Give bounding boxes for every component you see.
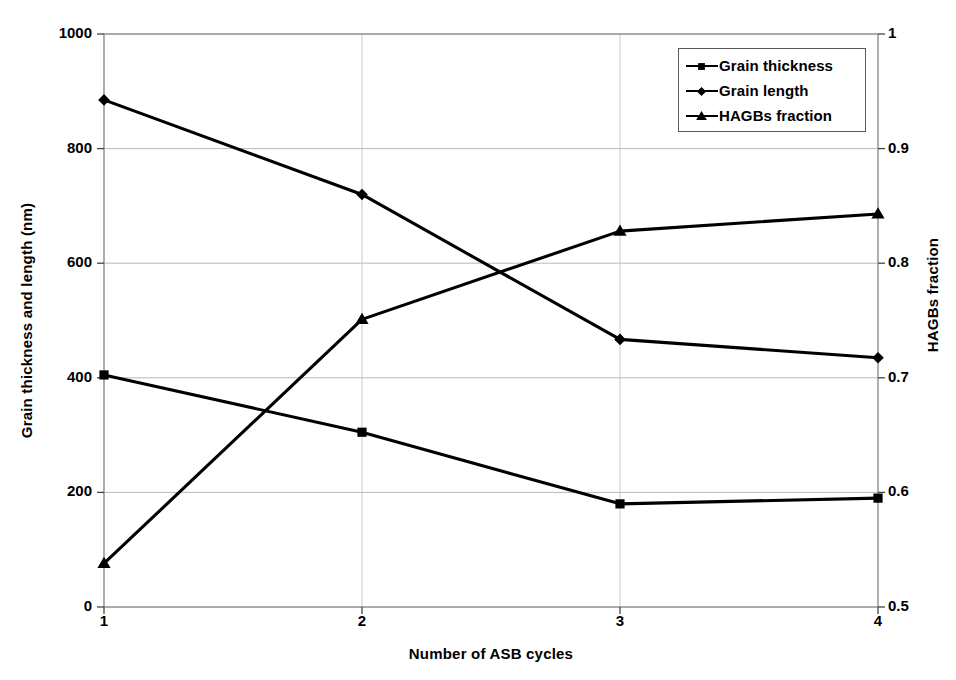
chart-legend: Grain thicknessGrain lengthHAGBs fractio… (678, 48, 866, 132)
legend-item[interactable]: Grain length (685, 78, 859, 103)
legend-marker-triangle-icon (685, 109, 719, 123)
x-axis-tick-label: 4 (874, 612, 882, 629)
x-axis-tick-label: 3 (616, 612, 624, 629)
legend-marker-square-icon (685, 59, 719, 73)
legend-marker-diamond-icon (685, 84, 719, 98)
x-axis-tick-label: 1 (100, 612, 108, 629)
y-axis-left-title: Grain thickness and length (nm) (14, 34, 40, 607)
chart-container: 02004006008001000 0.50.60.70.80.91 1234 … (0, 0, 956, 680)
marker-diamond (872, 352, 884, 364)
marker-square (357, 428, 366, 437)
y-axis-right-tick-label: 1 (888, 24, 896, 41)
series-line (104, 375, 878, 504)
data-series-layer (97, 94, 884, 568)
marker-diamond (614, 334, 626, 346)
marker-square (615, 499, 624, 508)
legend-item-label: Grain length (719, 82, 809, 99)
legend-item[interactable]: Grain thickness (685, 53, 859, 78)
marker-diamond (98, 94, 110, 106)
series-grain-length (98, 94, 884, 363)
series-line (104, 100, 878, 358)
series-grain-thickness (99, 370, 882, 508)
marker-diamond (697, 86, 706, 95)
y-axis-right-tick-label: 0.8 (888, 253, 909, 270)
x-axis-tick-label: 2 (358, 612, 366, 629)
y-axis-right-title: HAGBs fraction (920, 85, 946, 505)
series-hagbs-fraction (97, 207, 884, 568)
marker-triangle (696, 111, 707, 120)
y-axis-right-tick-label: 0.7 (888, 368, 909, 385)
legend-item[interactable]: HAGBs fraction (685, 103, 859, 128)
legend-item-label: HAGBs fraction (719, 107, 832, 124)
legend-item-label: Grain thickness (719, 57, 833, 74)
y-axis-right-tick-label: 0.6 (888, 482, 909, 499)
marker-diamond (356, 189, 368, 201)
x-axis-title: Number of ASB cycles (104, 645, 878, 662)
marker-square (873, 494, 882, 503)
y-axis-right-tick-label: 0.9 (888, 139, 909, 156)
marker-square (698, 63, 705, 70)
